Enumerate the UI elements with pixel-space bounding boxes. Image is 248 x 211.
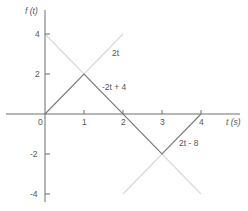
y-tick-label-neg2: -2 xyxy=(30,149,38,159)
line-neg2t4-extension xyxy=(45,34,84,74)
x-tick-label-1: 1 xyxy=(82,117,87,127)
chart: f (t) t (s) 0 1 2 3 4 4 2 -2 -4 2t -2t +… xyxy=(0,0,248,211)
annotation-2t: 2t xyxy=(112,48,120,58)
annotation-2t-minus-8: 2t - 8 xyxy=(179,138,199,148)
y-tick-label-2: 2 xyxy=(35,69,40,79)
x-tick-label-4: 4 xyxy=(199,117,204,127)
line-neg2t4-lower-extension xyxy=(162,154,201,194)
line-2t8-extension xyxy=(123,154,162,194)
annotation-neg2t-plus-4: -2t + 4 xyxy=(102,82,127,92)
y-tick-label-neg4: -4 xyxy=(30,189,38,199)
x-tick-label-2: 2 xyxy=(121,117,126,127)
x-axis-label: t (s) xyxy=(226,117,241,127)
y-tick-label-4: 4 xyxy=(35,29,40,39)
x-tick-label-0: 0 xyxy=(38,117,43,127)
x-tick-label-3: 3 xyxy=(160,117,165,127)
y-axis-label: f (t) xyxy=(25,6,38,16)
